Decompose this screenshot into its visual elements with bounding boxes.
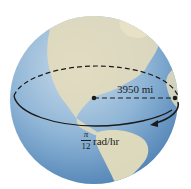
- globe-diagram: 3950 mi π 12 rad/hr: [0, 0, 191, 189]
- center-point: [92, 96, 97, 101]
- fraction-numerator: π: [81, 130, 91, 141]
- radius-label: 3950 mi: [117, 84, 153, 95]
- angular-speed-fraction: π 12: [81, 130, 91, 151]
- fraction-denominator: 12: [81, 141, 91, 151]
- surface-point: [173, 96, 178, 101]
- angular-speed-unit: rad/hr: [93, 136, 119, 147]
- globe-svg: [0, 0, 191, 189]
